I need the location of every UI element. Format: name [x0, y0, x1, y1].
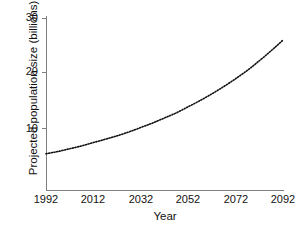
projection-curve — [0, 0, 305, 229]
population-projection-chart: 30 20 10 1992 2012 2032 2052 2072 2092 P… — [0, 0, 305, 229]
